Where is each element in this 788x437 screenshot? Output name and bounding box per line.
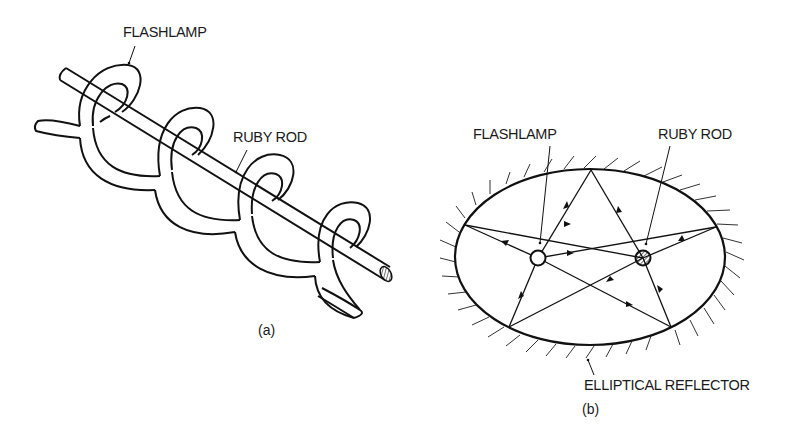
diagram-canvas: FLASHLAMP RUBY ROD (a) <box>0 0 788 437</box>
caption-b: (b) <box>582 401 599 417</box>
label-flashlamp-b: FLASHLAMP <box>473 126 557 142</box>
ruby-rod-cross-section <box>636 251 651 266</box>
leader-flashlamp-b <box>540 146 550 243</box>
leader-reflector <box>588 360 594 375</box>
leader-flashlamp-a <box>129 46 135 63</box>
ruby-rod-a <box>60 68 395 283</box>
label-ruby-rod-b: RUBY ROD <box>658 126 732 142</box>
label-ruby-rod-a: RUBY ROD <box>233 129 307 145</box>
label-elliptical-reflector: ELLIPTICAL REFLECTOR <box>584 377 750 393</box>
reflector-hatching <box>440 156 744 358</box>
label-flashlamp-a: FLASHLAMP <box>123 24 207 40</box>
elliptical-reflector <box>455 169 725 345</box>
flashlamp-cross-section <box>531 251 546 266</box>
figure-a-helical-flashlamp: FLASHLAMP RUBY ROD (a) <box>35 24 394 338</box>
caption-a: (a) <box>258 322 275 338</box>
leader-ruby-rod-a <box>236 150 247 172</box>
leader-ruby-rod-b <box>646 146 670 244</box>
light-rays <box>465 170 716 327</box>
figure-b-elliptical-reflector: FLASHLAMP RUBY ROD ELLIPTICAL REFLECTOR … <box>440 126 750 417</box>
